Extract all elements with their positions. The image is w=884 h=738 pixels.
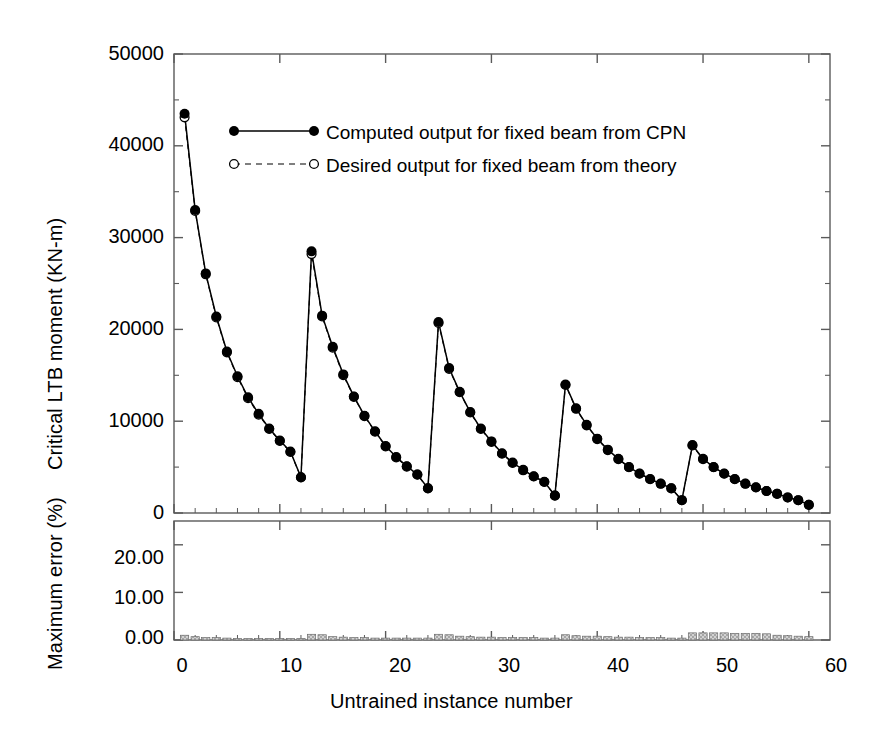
- desired-data-point: [677, 496, 686, 505]
- desired-data-point: [286, 448, 295, 457]
- error-bar: [614, 637, 622, 640]
- error-bar: [456, 636, 464, 640]
- error-bar: [297, 639, 305, 641]
- desired-data-point: [244, 394, 253, 403]
- desired-data-point: [371, 427, 380, 436]
- xtick-label-0: 0: [150, 654, 214, 677]
- error-bar: [688, 633, 696, 640]
- computed-data-point: [211, 312, 221, 322]
- desired-data-point: [709, 463, 718, 472]
- error-bar: [762, 634, 770, 640]
- desired-data-point: [318, 312, 327, 321]
- desired-data-point: [762, 487, 771, 496]
- error-bar: [519, 638, 527, 640]
- computed-data-point: [677, 495, 687, 505]
- desired-data-point: [741, 479, 750, 488]
- ytick-label-upper-10000: 10000: [64, 409, 164, 432]
- error-bar: [551, 638, 559, 640]
- ytick-label-upper-20000: 20000: [64, 317, 164, 340]
- computed-data-point: [243, 392, 253, 402]
- desired-data-point: [254, 410, 263, 419]
- desired-data-point: [688, 441, 697, 450]
- error-bar: [233, 639, 241, 641]
- desired-data-point: [540, 478, 549, 487]
- computed-data-point: [645, 474, 655, 484]
- computed-data-point: [349, 391, 359, 401]
- computed-data-point: [201, 268, 211, 278]
- desired-data-point: [720, 469, 729, 478]
- desired-data-point: [783, 493, 792, 502]
- desired-data-point: [392, 453, 401, 462]
- error-bar: [731, 633, 739, 640]
- desired-data-point: [424, 484, 433, 493]
- computed-data-point: [613, 454, 623, 464]
- computed-data-point: [285, 446, 295, 456]
- computed-data-point: [582, 420, 592, 430]
- desired-data-point: [804, 500, 813, 509]
- error-bar: [583, 636, 591, 640]
- desired-data-point: [413, 470, 422, 479]
- desired-data-point: [519, 466, 528, 475]
- desired-data-point: [572, 404, 581, 413]
- desired-data-point: [498, 449, 507, 458]
- desired-data-point: [561, 381, 570, 390]
- desired-data-point: [434, 319, 443, 328]
- desired-data-point: [794, 496, 803, 505]
- desired-data-point: [551, 491, 560, 500]
- ytick-label-upper-50000: 50000: [64, 42, 164, 65]
- error-bar: [276, 639, 284, 641]
- error-bar: [403, 638, 411, 640]
- error-bar: [307, 634, 315, 640]
- legend-label-computed: Computed output for fixed beam from CPN: [326, 122, 686, 144]
- desired-data-point: [381, 442, 390, 451]
- computed-data-point: [434, 317, 444, 327]
- error-bar: [604, 637, 612, 640]
- computed-data-point: [486, 436, 496, 446]
- xtick-label-50: 50: [695, 654, 759, 677]
- computed-data-point: [698, 454, 708, 464]
- desired-data-point: [455, 388, 464, 397]
- ytick-label-lower-10: 10.00: [34, 586, 164, 609]
- figure-root: Critical LTB moment (KN-m) Maximum error…: [0, 0, 884, 738]
- computed-data-point: [539, 477, 549, 487]
- desired-data-point: [476, 425, 485, 434]
- computed-data-point: [402, 461, 412, 471]
- error-bar: [424, 638, 432, 640]
- computed-data-point: [497, 448, 507, 458]
- desired-data-point: [699, 455, 708, 464]
- error-bar: [286, 639, 294, 641]
- desired-data-point: [582, 421, 591, 430]
- computed-data-point: [444, 363, 454, 373]
- computed-data-point: [381, 441, 391, 451]
- error-bar: [498, 638, 506, 640]
- error-bar: [540, 638, 548, 640]
- desired-data-point: [402, 462, 411, 471]
- upper-panel-y-axis-title: Critical LTB moment (KN-m): [44, 218, 67, 470]
- computed-data-point: [571, 403, 581, 413]
- error-bar: [466, 637, 474, 640]
- xtick-label-40: 40: [586, 654, 650, 677]
- error-bar: [255, 639, 263, 641]
- desired-data-point: [593, 435, 602, 444]
- error-bar-group: [180, 633, 813, 640]
- desired-data-point: [614, 455, 623, 464]
- error-bar: [752, 633, 760, 640]
- error-bar: [445, 635, 453, 640]
- desired-data-point: [349, 392, 358, 401]
- error-bar: [625, 637, 633, 640]
- desired-data-point: [646, 475, 655, 484]
- computed-data-point: [465, 407, 475, 417]
- error-bar: [657, 638, 665, 640]
- legend-glyphs: [229, 126, 319, 168]
- computed-data-point: [529, 471, 539, 481]
- computed-data-point: [603, 445, 613, 455]
- computed-data-point: [317, 311, 327, 321]
- ytick-label-upper-30000: 30000: [64, 225, 164, 248]
- error-bar: [794, 636, 802, 640]
- desired-data-point: [307, 250, 316, 259]
- desired-data-point: [223, 348, 232, 357]
- error-bar: [699, 633, 707, 640]
- error-bar: [339, 637, 347, 640]
- computed-data-point: [508, 458, 518, 468]
- error-bar: [223, 638, 231, 640]
